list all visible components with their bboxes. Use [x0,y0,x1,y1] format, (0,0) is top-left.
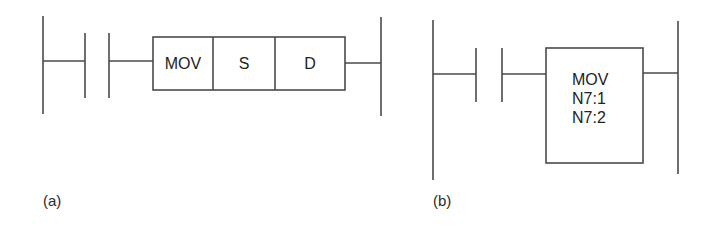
caption-a: (a) [43,192,61,209]
mov-a-opcode: MOV [153,56,213,72]
mov-a-source: S [213,56,275,72]
caption-b: (b) [433,192,451,209]
diagram-b-rung [433,20,678,180]
mov-b-text: MOV N7:1 N7:2 [572,70,608,127]
mov-a-destination: D [275,56,345,72]
mov-b-source: N7:1 [572,89,608,108]
mov-b-destination: N7:2 [572,108,608,127]
mov-b-opcode: MOV [572,70,608,89]
